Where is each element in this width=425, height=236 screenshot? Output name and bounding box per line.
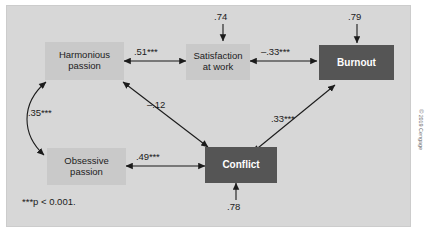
path-label-conflict-harmonious: –.12 <box>147 99 165 110</box>
disturbance-label-satisfaction: .74 <box>214 11 227 22</box>
node-obsessive-passion-label: Obsessivepassion <box>64 156 108 177</box>
node-harmonious-passion-label: Harmoniouspassion <box>59 50 110 71</box>
path-label-satisfaction-burnout: –.33*** <box>261 46 290 57</box>
node-satisfaction-at-work-label: Satisfactionat work <box>193 51 242 72</box>
node-obsessive-passion[interactable]: Obsessivepassion <box>47 148 126 185</box>
copyright-notice: © 2019 Cengage <box>418 109 424 150</box>
connector-conflict-harmonious <box>123 82 208 147</box>
node-conflict-label: Conflict <box>222 159 259 170</box>
node-burnout[interactable]: Burnout <box>319 45 394 80</box>
significance-footnote: ***p < 0.001. <box>22 196 76 207</box>
path-label-harmonious-obsessive: .35*** <box>28 107 52 118</box>
node-satisfaction-at-work[interactable]: Satisfactionat work <box>186 44 250 80</box>
path-label-conflict-burnout: .33*** <box>271 113 295 124</box>
node-harmonious-passion[interactable]: Harmoniouspassion <box>45 42 124 80</box>
node-conflict[interactable]: Conflict <box>205 147 277 183</box>
disturbance-label-conflict: .78 <box>227 201 240 212</box>
disturbance-label-burnout: .79 <box>348 11 361 22</box>
node-burnout-label: Burnout <box>337 57 376 68</box>
path-label-obsessive-conflict: .49*** <box>136 151 160 162</box>
path-label-harmonious-satisfaction: .51*** <box>134 46 158 57</box>
connector-harmonious-obsessive <box>27 82 46 155</box>
path-diagram-figure: Harmoniouspassion Satisfactionat work Bu… <box>0 0 425 236</box>
